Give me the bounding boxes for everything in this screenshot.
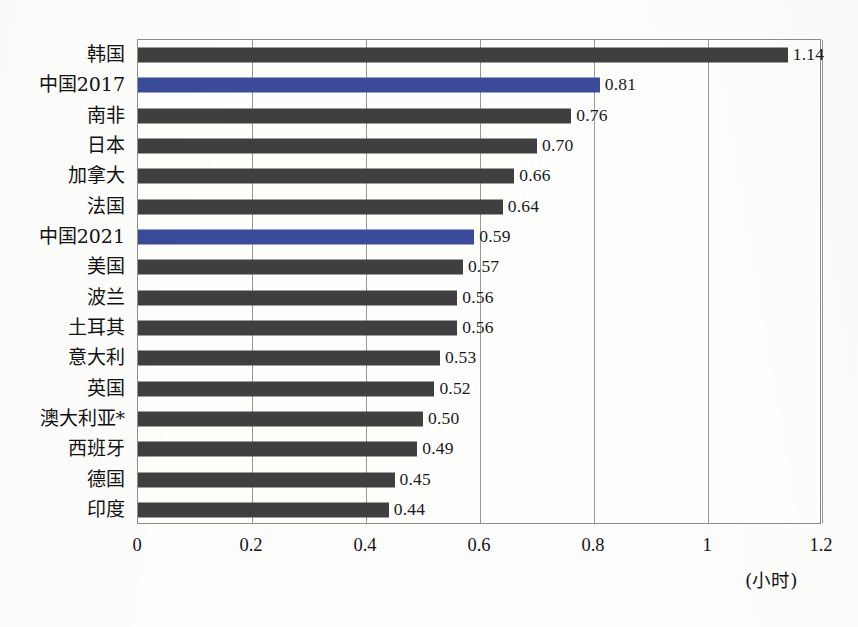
category-label-slot: 法国 [0, 191, 131, 221]
category-label-slot: 中国2021 [0, 221, 131, 251]
bar-row: 0.70 [138, 131, 820, 161]
bar-value-label: 0.57 [468, 259, 499, 277]
category-label: 西班牙 [1, 439, 131, 458]
bar-value-label: 0.53 [445, 350, 476, 368]
bar-row: 0.76 [138, 101, 820, 131]
bar [138, 260, 463, 275]
bar-value-label: 1.14 [793, 46, 824, 64]
bar-row: 0.64 [138, 192, 820, 222]
bar-value-label: 0.59 [479, 228, 510, 246]
category-label-slot: 澳大利亚* [0, 403, 131, 433]
category-label: 波兰 [1, 287, 131, 306]
category-label: 土耳其 [1, 317, 131, 336]
bar [138, 199, 503, 214]
category-axis-labels: 韩国中国2017南非日本加拿大法国中国2021美国波兰土耳其意大利英国澳大利亚*… [0, 39, 131, 524]
category-label-slot: 美国 [0, 251, 131, 281]
category-label: 加拿大 [1, 166, 131, 185]
bar [138, 290, 457, 305]
bar [138, 139, 537, 154]
bar [138, 108, 571, 123]
category-label: 美国 [1, 257, 131, 276]
bar-row: 0.49 [138, 434, 820, 464]
bar-row: 0.50 [138, 404, 820, 434]
category-label: 法国 [1, 196, 131, 215]
bar-row: 0.57 [138, 252, 820, 282]
bar-value-label: 0.44 [394, 501, 425, 519]
bar-row: 0.56 [138, 313, 820, 343]
category-label-slot: 波兰 [0, 282, 131, 312]
category-label-slot: 日本 [0, 130, 131, 160]
bar-value-label: 0.66 [519, 168, 550, 186]
category-label-slot: 南非 [0, 100, 131, 130]
category-label: 中国2021 [1, 227, 131, 246]
category-label: 印度 [1, 499, 131, 518]
category-label-slot: 意大利 [0, 342, 131, 372]
bar-row: 0.52 [138, 373, 820, 403]
category-label: 南非 [1, 105, 131, 124]
x-axis-tick-label: 0.4 [353, 536, 376, 555]
category-label-slot: 中国2017 [0, 69, 131, 99]
bar [138, 442, 417, 457]
x-axis: 00.20.40.60.811.2 [137, 524, 821, 564]
bar-value-label: 0.76 [576, 107, 607, 125]
category-label-slot: 加拿大 [0, 160, 131, 190]
bar [138, 169, 514, 184]
x-axis-tick-label: 0.8 [581, 536, 604, 555]
category-label-slot: 土耳其 [0, 312, 131, 342]
bar [138, 48, 788, 63]
bar-value-label: 0.64 [508, 198, 539, 216]
bar-row: 0.44 [138, 495, 820, 525]
category-label-slot: 韩国 [0, 39, 131, 69]
x-axis-unit-label: (小时) [745, 572, 797, 591]
bar [138, 502, 389, 517]
x-axis-tick-label: 0.6 [467, 536, 490, 555]
category-label: 韩国 [1, 45, 131, 64]
x-axis-tick-label: 1 [702, 536, 711, 555]
category-label: 意大利 [1, 348, 131, 367]
bar-row: 0.81 [138, 70, 820, 100]
bar-row: 0.53 [138, 343, 820, 373]
bar-value-label: 0.70 [542, 137, 573, 155]
bar [138, 381, 434, 396]
category-label: 澳大利亚* [1, 408, 131, 427]
bar-row: 0.45 [138, 464, 820, 494]
category-label-slot: 印度 [0, 494, 131, 524]
bar-row: 1.14 [138, 40, 820, 70]
bar-row: 0.59 [138, 222, 820, 252]
bar-value-label: 0.52 [439, 380, 470, 398]
bar-value-label: 0.81 [605, 77, 636, 95]
category-label-slot: 西班牙 [0, 433, 131, 463]
category-label-slot: 英国 [0, 372, 131, 402]
category-label: 德国 [1, 469, 131, 488]
category-label: 日本 [1, 136, 131, 155]
bar-value-label: 0.56 [462, 319, 493, 337]
bar-value-label: 0.45 [400, 471, 431, 489]
bar [138, 351, 440, 366]
gridline [822, 40, 823, 523]
bar-value-label: 0.49 [422, 440, 453, 458]
bar [138, 320, 457, 335]
category-label: 中国2017 [1, 75, 131, 94]
bar [138, 411, 423, 426]
x-axis-tick-label: 1.2 [809, 536, 832, 555]
bar-value-label: 0.50 [428, 410, 459, 428]
bar [138, 230, 474, 245]
bar [138, 78, 600, 93]
bar-row: 0.56 [138, 283, 820, 313]
x-axis-tick-label: 0.2 [239, 536, 262, 555]
bar-row: 0.66 [138, 161, 820, 191]
plot-area: 1.140.810.760.700.660.640.590.570.560.56… [137, 39, 821, 524]
x-axis-tick-label: 0 [132, 536, 141, 555]
bar [138, 472, 395, 487]
bar-chart: 韩国中国2017南非日本加拿大法国中国2021美国波兰土耳其意大利英国澳大利亚*… [0, 0, 858, 627]
category-label: 英国 [1, 378, 131, 397]
bar-value-label: 0.56 [462, 289, 493, 307]
category-label-slot: 德国 [0, 463, 131, 493]
